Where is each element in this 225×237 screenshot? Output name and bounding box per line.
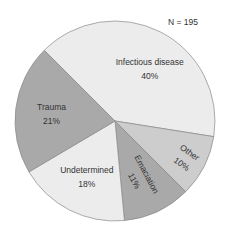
pie-chart: Infectious disease40%Other10%Emaciation1… bbox=[0, 0, 225, 237]
slice-label-infectious-disease: Infectious disease bbox=[116, 57, 184, 67]
slice-value-trauma: 21% bbox=[43, 116, 60, 126]
slice-label-trauma: Trauma bbox=[37, 102, 66, 112]
slice-value-undetermined: 18% bbox=[78, 179, 95, 189]
sample-size-annotation: N = 195 bbox=[168, 17, 198, 27]
slice-label-undetermined: Undetermined bbox=[60, 165, 114, 175]
slice-value-infectious-disease: 40% bbox=[141, 71, 158, 81]
